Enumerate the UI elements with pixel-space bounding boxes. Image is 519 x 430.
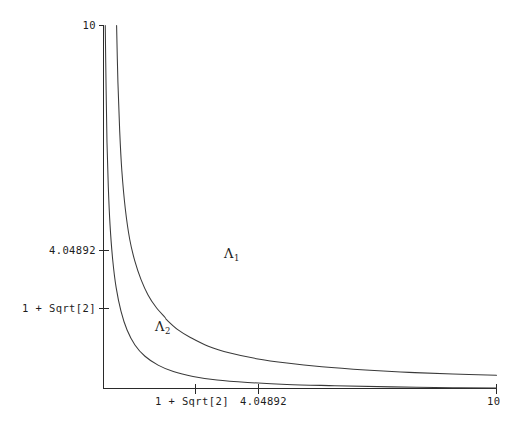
lambda-1-subscript: 1 bbox=[234, 253, 239, 263]
plot-figure: 10 4.04892 1 + Sqrt[2] 1 + Sqrt[2] 4.048… bbox=[0, 0, 519, 430]
lambda-1-glyph: Λ bbox=[224, 246, 233, 261]
plot-canvas bbox=[0, 0, 519, 430]
y-axis-label-404892: 4.04892 bbox=[36, 245, 96, 256]
y-axis-label-1-plus-sqrt2: 1 + Sqrt[2] bbox=[20, 303, 96, 314]
x-axis-label-10: 10 bbox=[487, 396, 500, 407]
lambda-2-glyph: Λ bbox=[155, 319, 164, 334]
x-axis-label-1-plus-sqrt2: 1 + Sqrt[2] bbox=[155, 396, 229, 407]
region-label-lambda-2: Λ2 bbox=[155, 320, 170, 333]
y-axis-label-10: 10 bbox=[60, 20, 96, 31]
upper-boundary-curve bbox=[117, 26, 497, 376]
lambda-2-subscript: 2 bbox=[165, 326, 170, 336]
region-label-lambda-1: Λ1 bbox=[224, 247, 239, 260]
x-axis-label-404892: 4.04892 bbox=[240, 396, 287, 407]
